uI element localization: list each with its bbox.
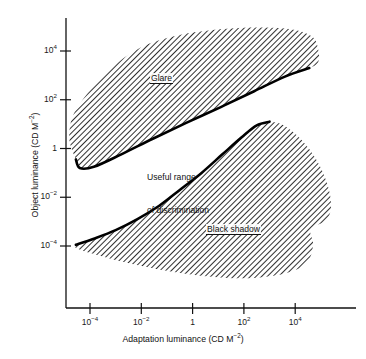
y-axis-title: Object luminance (CD M−2) xyxy=(30,75,40,255)
y-axis-title-tail: ) xyxy=(30,113,40,116)
useful-range-line-2: of discrimination xyxy=(147,205,209,216)
x-tick-exponent: 4 xyxy=(298,315,301,322)
x-tick-base: 1 xyxy=(190,317,195,327)
y-tick-base: 10 xyxy=(40,191,49,201)
y-tick-label: 10−4 xyxy=(40,240,57,250)
x-tick-label: 102 xyxy=(230,317,258,327)
x-tick-exponent: 2 xyxy=(247,315,250,322)
x-tick-exponent: −2 xyxy=(143,315,150,322)
y-tick-label: 1 xyxy=(52,143,57,153)
figure-container: 104102110−210−410−410−21102104 Glare Use… xyxy=(0,0,366,359)
black-shadow-label: Black shadow xyxy=(206,224,261,235)
useful-range-label: Useful range of discrimination xyxy=(146,150,210,238)
x-tick-base: 10 xyxy=(237,317,246,327)
y-tick-label: 102 xyxy=(44,94,57,104)
x-axis-title-tail: ) xyxy=(241,334,244,344)
y-tick-base: 10 xyxy=(40,240,49,250)
y-tick-exponent: −4 xyxy=(50,238,57,245)
y-axis-title-text: Object luminance (CD M xyxy=(30,123,40,218)
x-tick-label: 10−2 xyxy=(127,317,155,327)
useful-range-line-1: Useful range xyxy=(147,172,209,183)
x-tick-label: 104 xyxy=(281,317,309,327)
y-tick-label: 104 xyxy=(44,45,57,55)
x-tick-base: 10 xyxy=(82,317,91,327)
x-axis-title-exponent: −2 xyxy=(233,332,240,339)
y-axis-title-exponent: −2 xyxy=(28,116,35,123)
y-tick-exponent: 4 xyxy=(54,43,57,50)
x-tick-base: 10 xyxy=(289,317,298,327)
x-axis-title: Adaptation luminance (CD M−2) xyxy=(0,334,366,344)
y-tick-exponent: 2 xyxy=(54,92,57,99)
x-axis-title-text: Adaptation luminance (CD M xyxy=(122,334,233,344)
x-tick-exponent: −4 xyxy=(91,315,98,322)
glare-label: Glare xyxy=(150,73,173,84)
x-tick-base: 10 xyxy=(133,317,142,327)
y-tick-exponent: −2 xyxy=(50,189,57,196)
y-tick-base: 10 xyxy=(44,45,53,55)
x-tick-label: 10−4 xyxy=(76,317,104,327)
y-tick-base: 1 xyxy=(52,143,57,153)
x-tick-label: 1 xyxy=(179,317,207,327)
y-tick-label: 10−2 xyxy=(40,191,57,201)
y-tick-base: 10 xyxy=(44,94,53,104)
